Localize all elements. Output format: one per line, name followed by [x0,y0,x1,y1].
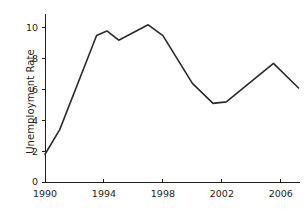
y-tick-label: 0 [32,176,38,187]
x-tick-group [45,179,281,183]
x-tick-label: 1998 [151,188,175,199]
series-group [45,25,299,154]
y-tick-label: 2 [32,146,38,157]
x-tick-label: 2002 [210,188,234,199]
y-tick-group [42,28,46,182]
y-tick-label: 8 [32,53,38,64]
x-tick-label: 1994 [92,188,116,199]
data-series-line [45,25,299,154]
y-tick-label: 6 [32,84,38,95]
x-tick-label: 1990 [33,188,57,199]
plot-area: 0246810 19901994199820022006 [0,0,307,213]
y-tick-label: 10 [26,22,38,33]
y-tick-label: 4 [32,115,38,126]
y-tick-label-group: 0246810 [26,22,38,187]
unemployment-rate-line-chart: Unemployment Rate 0246810 19901994199820… [0,0,307,213]
x-tick-label-group: 19901994199820022006 [33,188,293,199]
x-tick-label: 2006 [269,188,293,199]
